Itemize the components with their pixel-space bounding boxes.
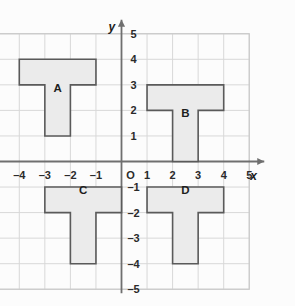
shape-b — [147, 85, 224, 162]
shape-a — [19, 59, 96, 136]
shape-label-c: C — [79, 185, 87, 197]
shape-d — [147, 187, 224, 264]
x-tick-label-neg2: –2 — [64, 169, 76, 180]
coordinate-plane-figure: –5–4–3–2–11234554321–1–2–3–4–5Oxy ABCD — [0, 0, 295, 306]
x-tick-label-4: 4 — [221, 169, 227, 180]
shape-label-a: A — [53, 83, 61, 95]
plot-canvas — [0, 0, 295, 306]
shape-label-b: B — [181, 108, 189, 120]
y-axis-arrow-icon — [118, 20, 125, 27]
x-tick-label-1: 1 — [144, 169, 150, 180]
x-tick-label-3: 3 — [195, 169, 201, 180]
y-tick-label-neg4: –4 — [127, 258, 139, 269]
y-tick-label-3: 3 — [130, 79, 136, 90]
x-tick-label-neg4: –4 — [13, 169, 25, 180]
shape-label-d: D — [181, 185, 189, 197]
y-tick-label-neg5: –5 — [127, 284, 139, 295]
y-axis-name: y — [109, 21, 116, 33]
x-tick-label-2: 2 — [170, 169, 176, 180]
shape-c — [45, 187, 122, 264]
y-tick-label-4: 4 — [130, 54, 136, 65]
x-tick-label-neg3: –3 — [39, 169, 51, 180]
y-tick-label-neg3: –3 — [127, 233, 139, 244]
y-tick-label-neg2: –2 — [127, 207, 139, 218]
x-axis-name: x — [250, 170, 257, 182]
origin-label: O — [126, 169, 135, 180]
y-tick-label-5: 5 — [130, 28, 136, 39]
x-tick-label-neg1: –1 — [90, 169, 102, 180]
y-tick-label-2: 2 — [130, 105, 136, 116]
y-tick-label-1: 1 — [130, 130, 136, 141]
y-tick-label-neg1: –1 — [127, 182, 139, 193]
x-axis-arrow-icon — [257, 158, 264, 165]
